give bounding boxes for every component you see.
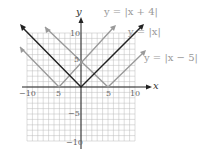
y-axis-label: y (76, 6, 82, 17)
tick-y-n5: −5 (68, 109, 80, 118)
tick-x-n5: 5 (56, 89, 61, 98)
eq-label-2: y = |x| (128, 26, 161, 37)
tick-y-10: 10 (70, 29, 80, 38)
eq-label-1: y = |x + 4| (104, 6, 158, 17)
tick-x-5: 5 (106, 89, 111, 98)
tick-y-n10: −10 (66, 138, 83, 147)
eq-label-3: y = |x − 5| (144, 52, 198, 63)
tick-y-5: 5 (74, 55, 79, 64)
tick-x-n10: −10 (19, 89, 36, 98)
graph (0, 0, 201, 149)
tick-x-10: 10 (130, 89, 140, 98)
x-axis-label: x (153, 80, 159, 91)
y-axis-arrow-icon (79, 17, 84, 23)
x-axis-arrow-icon (146, 85, 152, 90)
